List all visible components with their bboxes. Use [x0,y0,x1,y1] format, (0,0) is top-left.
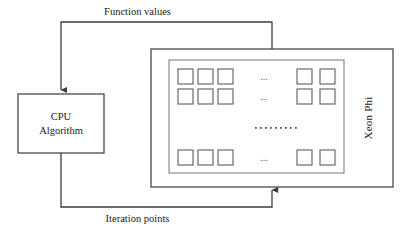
cpu-label-line-2: Algorithm [39,124,83,138]
core-row-3 [178,150,335,165]
edge-iteration-points [61,153,272,207]
core-square [297,89,312,104]
core-square [198,69,213,84]
core-square [297,150,312,165]
core-square [218,69,233,84]
core-square [320,150,335,165]
cpu-label-line-1: CPU [51,110,71,124]
core-continuation-dots [255,127,297,129]
edge-label-iteration-points: Iteration points [0,213,275,224]
core-square [297,69,312,84]
core-square [218,150,233,165]
cpu-algorithm-label: CPU Algorithm [18,94,104,153]
core-square [178,69,193,84]
row-1-ellipsis: ... [260,71,268,82]
xeon-phi-label: Xeon Phi [344,49,393,187]
core-square [320,89,335,104]
core-square [178,150,193,165]
core-row-2 [178,89,335,104]
xeon-phi-inner-box [169,60,344,173]
core-square [178,89,193,104]
xeon-phi-label-text: Xeon Phi [362,97,374,140]
core-row-1 [178,69,335,84]
core-square [320,69,335,84]
row-3-ellipsis: ... [260,152,268,163]
row-2-ellipsis: ... [260,91,268,102]
edge-label-function-values: Function values [0,6,275,17]
diagram-canvas: ... ... ... Function values Iteration po… [0,0,409,240]
core-square [198,89,213,104]
core-square [218,89,233,104]
core-square [198,150,213,165]
edge-function-values [61,22,272,90]
